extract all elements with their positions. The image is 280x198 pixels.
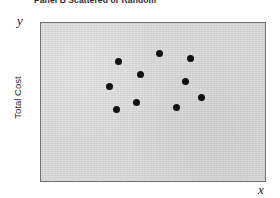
data-point xyxy=(182,78,189,85)
data-point xyxy=(115,58,122,65)
data-point xyxy=(198,94,205,101)
data-point xyxy=(173,104,180,111)
data-point xyxy=(106,83,113,90)
figure-caption-strip: Panel B Scattered or Random xyxy=(0,0,280,9)
data-point xyxy=(113,106,120,113)
scatter-plot-figure: Panel B Scattered or Random y Total Cost… xyxy=(0,0,280,198)
data-point xyxy=(156,50,163,57)
data-point xyxy=(137,71,144,78)
y-axis-title: Total Cost xyxy=(12,48,23,148)
figure-caption: Panel B Scattered or Random xyxy=(34,0,156,5)
plot-area xyxy=(40,22,266,182)
y-axis-letter: y xyxy=(17,13,23,29)
x-axis-letter: x xyxy=(258,182,264,198)
data-point xyxy=(133,99,140,106)
data-point xyxy=(187,55,194,62)
